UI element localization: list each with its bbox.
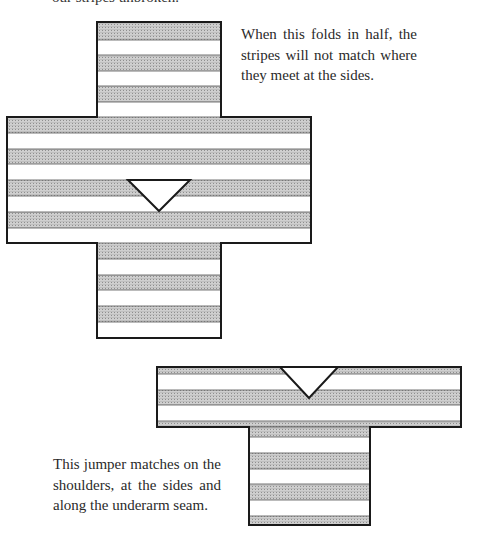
bottom-sleeve (97, 243, 221, 322)
caption-unmatched: When this folds in half, the stripes wil… (241, 24, 417, 86)
top-sleeve (97, 22, 221, 102)
caption-matched: This jumper matches on the shoulders, at… (53, 454, 221, 516)
underarm-sleeve (249, 427, 370, 525)
